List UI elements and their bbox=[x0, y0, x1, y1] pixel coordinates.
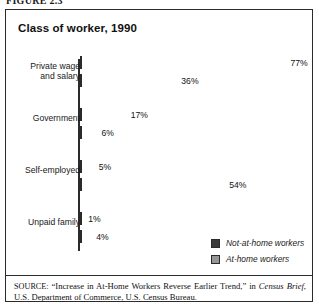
bar-row: 54% bbox=[80, 178, 224, 191]
bar-value-label: 17% bbox=[131, 110, 148, 120]
bar bbox=[80, 56, 82, 69]
category-label: Unpaid family bbox=[5, 217, 80, 228]
legend-label-at-home: At-home workers bbox=[226, 254, 289, 264]
source-note: SOURCE: “Increase in At-Home Workers Rev… bbox=[14, 281, 306, 302]
legend-label-not-at-home: Not-at-home workers bbox=[226, 238, 304, 248]
plot-area: Private wage and salary77%36%Government1… bbox=[6, 50, 313, 255]
bar-value-label: 5% bbox=[99, 162, 111, 172]
bar-row: 6% bbox=[80, 126, 96, 139]
category-label: Private wage and salary bbox=[5, 61, 80, 82]
bar-row: 1% bbox=[80, 212, 83, 225]
bar-row: 36% bbox=[80, 74, 176, 87]
bar-value-label: 54% bbox=[229, 180, 246, 190]
figure-number: FIGURE 2.3 bbox=[6, 0, 63, 6]
bar-row: 4% bbox=[80, 230, 91, 243]
bar-value-label: 1% bbox=[88, 214, 100, 224]
bar bbox=[80, 108, 82, 121]
bar bbox=[80, 178, 82, 191]
chart-title: Class of worker, 1990 bbox=[18, 22, 137, 34]
bar-row: 77% bbox=[80, 56, 285, 69]
source-divider bbox=[6, 275, 313, 276]
category-label: Government bbox=[5, 113, 80, 124]
bar-value-label: 4% bbox=[96, 232, 108, 242]
bar-value-label: 36% bbox=[181, 76, 198, 86]
legend-swatch-icon-at-home bbox=[211, 255, 220, 264]
category-label: Self-employed bbox=[5, 165, 80, 176]
bar bbox=[80, 160, 82, 173]
bar-row: 5% bbox=[80, 160, 93, 173]
bar bbox=[80, 212, 82, 225]
source-publication-title: Census Brief bbox=[259, 281, 304, 291]
source-line1: “Increase in At-Home Workers Reverse Ear… bbox=[52, 281, 256, 291]
figure-container: FIGURE 2.3 Class of worker, 1990 Private… bbox=[0, 0, 319, 304]
bar bbox=[80, 230, 82, 243]
legend-swatch-icon-not-at-home bbox=[211, 239, 220, 248]
chart-legend: Not-at-home workers At-home workers bbox=[211, 238, 304, 270]
bar-value-label: 77% bbox=[291, 58, 308, 68]
legend-item-not-at-home: Not-at-home workers bbox=[211, 238, 304, 248]
bar bbox=[80, 126, 82, 139]
bar bbox=[80, 74, 82, 87]
source-prefix: SOURCE: bbox=[14, 282, 49, 291]
legend-item-at-home: At-home workers bbox=[211, 254, 304, 264]
chart-frame: Class of worker, 1990 Private wage and s… bbox=[5, 9, 313, 302]
bar-row: 17% bbox=[80, 108, 125, 121]
bar-value-label: 6% bbox=[101, 128, 113, 138]
